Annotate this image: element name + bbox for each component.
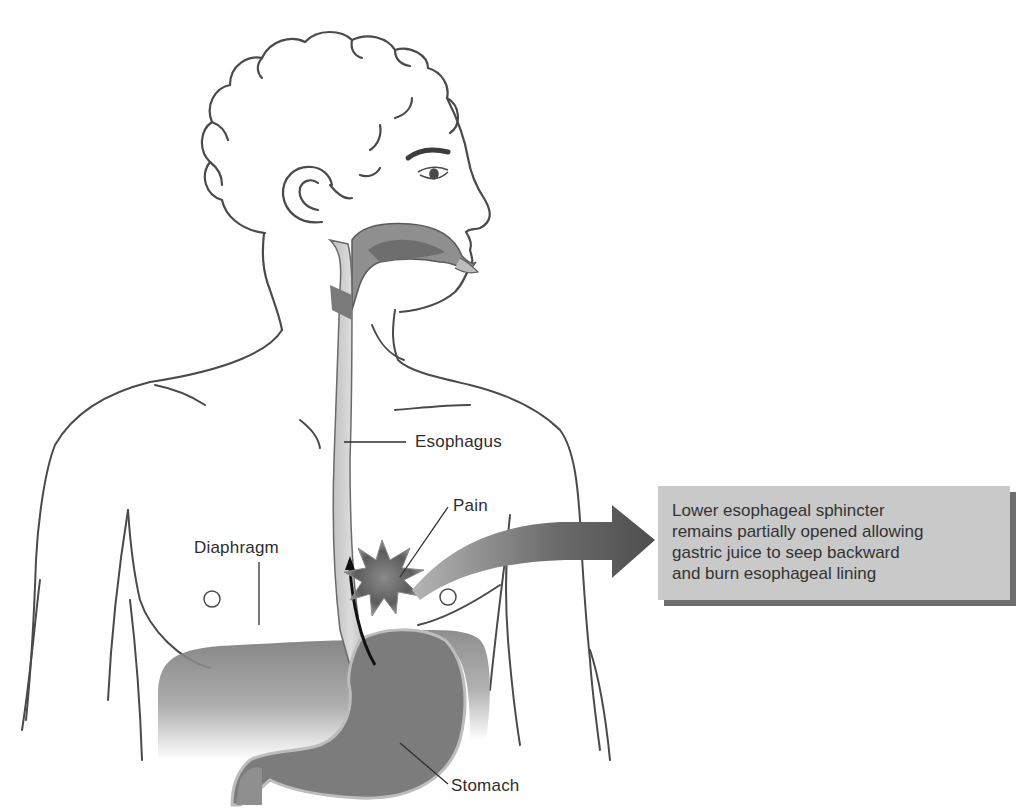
esophagus-label: Esophagus	[415, 432, 502, 452]
callout-arrow	[412, 505, 655, 600]
hair-outline	[202, 32, 458, 233]
ear	[283, 167, 332, 223]
anatomy-illustration	[0, 0, 1035, 812]
face-outline	[263, 98, 490, 330]
sphincter-callout-box: Lower esophageal sphincter remains parti…	[658, 486, 1010, 600]
eyebrow	[408, 150, 448, 158]
eye	[418, 167, 448, 179]
pain-label: Pain	[453, 496, 488, 516]
stomach-label: Stomach	[451, 776, 520, 796]
oral-cavity	[352, 224, 478, 310]
diaphragm-label: Diaphragm	[194, 538, 279, 558]
callout-text: Lower esophageal sphincter remains parti…	[672, 500, 923, 584]
callout-line: remains partially opened allowing	[672, 521, 923, 542]
callout-line: Lower esophageal sphincter	[672, 500, 923, 521]
callout-line: gastric juice to seep backward	[672, 542, 923, 563]
callout-line: and burn esophageal lining	[672, 563, 923, 584]
reflux-diagram: Esophagus Pain Diaphragm Stomach Lower e…	[0, 0, 1035, 812]
